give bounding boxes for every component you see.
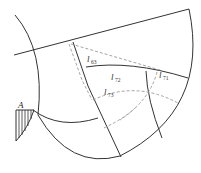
inner-lower-arc: [33, 110, 98, 123]
svg-text:63: 63: [91, 59, 97, 65]
diagram-svg: A l 63 l 72 l 73 l 71: [0, 0, 201, 173]
dashed-radial-1: [69, 44, 92, 100]
dashed-line-top: [71, 44, 160, 70]
point-label-A: A: [17, 100, 24, 110]
radial-line-1: [73, 42, 121, 157]
label-l72: l 72: [111, 72, 121, 83]
svg-text:72: 72: [115, 77, 121, 83]
svg-text:l: l: [104, 87, 107, 97]
svg-text:l: l: [159, 70, 162, 80]
label-l73: l 73: [104, 87, 114, 98]
middle-arc: [86, 65, 188, 78]
dashed-radial-2: [120, 72, 157, 120]
svg-text:l: l: [111, 72, 114, 82]
outer-fan-arc: [38, 9, 193, 159]
hatched-region: [16, 110, 34, 141]
top-line: [14, 9, 189, 55]
diagram-canvas: A l 63 l 72 l 73 l 71: [0, 0, 201, 173]
svg-text:73: 73: [108, 92, 114, 98]
svg-text:71: 71: [163, 75, 169, 81]
svg-text:l: l: [87, 54, 90, 64]
label-l63: l 63: [87, 54, 97, 65]
dashed-arc-lower: [104, 108, 135, 128]
